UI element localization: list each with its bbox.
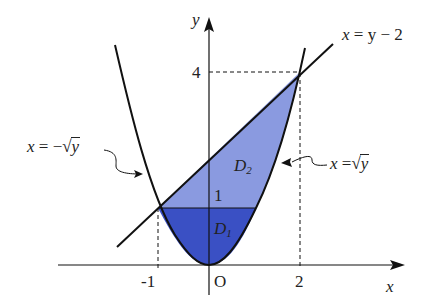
pointer-right	[292, 156, 327, 165]
x-tick-neg1: -1	[141, 273, 155, 290]
pointer-right-arrowhead-icon	[281, 158, 292, 167]
label-line-equation: x = y − 2	[342, 26, 403, 43]
y-axis-label: y	[192, 11, 200, 28]
region-label-d2: D2	[234, 157, 252, 176]
y-tick-1: 1	[214, 187, 223, 204]
x-axis-label: x	[386, 278, 394, 295]
label-right-branch: x =√y	[330, 154, 369, 172]
label-left-branch: x = −√y	[27, 137, 80, 155]
y-tick-4: 4	[192, 64, 201, 81]
x-tick-2: 2	[295, 273, 304, 290]
region-label-d1: D1	[214, 220, 232, 239]
origin-label: O	[214, 273, 226, 290]
